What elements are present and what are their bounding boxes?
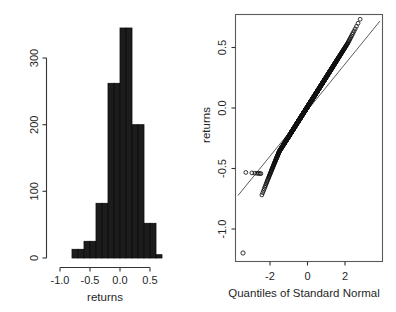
svg-text:300: 300 <box>28 49 40 67</box>
histogram-svg: 300 200 100 0 <box>0 0 200 312</box>
histogram-x-axis-title: returns <box>87 291 123 303</box>
histogram-y-tick-label-100: 100 <box>28 182 40 200</box>
qqplot-x-tick-label-0: 0 <box>304 270 310 282</box>
qqplot-y-tick-label-00: 0.0 <box>216 100 228 115</box>
qqplot-svg: 0.5 0.0 -0.5 -1.0 returns -2 0 2 Quantil… <box>196 0 396 312</box>
qqplot-y-ticks <box>232 48 236 230</box>
histogram-bar <box>90 241 96 258</box>
histogram-bar <box>114 83 120 258</box>
qqplot-point <box>356 21 360 25</box>
histogram-x-tick-label-05: 0.5 <box>142 274 157 286</box>
qqplot-point <box>358 17 362 21</box>
histogram-x-tick-label-0: 0.0 <box>112 274 127 286</box>
qqplot-y-axis-title: returns <box>200 107 212 143</box>
histogram-x-axis <box>60 268 150 272</box>
qqplot-x-tick-label-2: 2 <box>342 270 348 282</box>
histogram-x-tick-label-neg1: -1.0 <box>51 274 70 286</box>
qqplot-panel: 0.5 0.0 -0.5 -1.0 returns -2 0 2 Quantil… <box>196 0 396 312</box>
histogram-bar <box>156 255 162 258</box>
histogram-bar <box>102 203 108 258</box>
qqplot-y-tick-label-neg05: -0.5 <box>216 159 228 178</box>
qqplot-x-axis-title: Quantiles of Standard Normal <box>228 287 380 299</box>
histogram-bar <box>126 28 132 258</box>
histogram-y-tick-label-300: 300 <box>28 49 40 67</box>
histogram-bar <box>144 223 150 258</box>
histogram-bar <box>108 83 114 258</box>
figure-canvas: 300 200 100 0 <box>0 0 396 312</box>
histogram-y-axis <box>43 58 47 258</box>
qqplot-y-tick-label-05: 0.5 <box>216 40 228 55</box>
histogram-y-tick-label-200: 200 <box>28 116 40 134</box>
histogram-bar <box>150 223 156 258</box>
qqplot-x-ticks <box>270 262 345 266</box>
histogram-bar <box>96 203 102 258</box>
histogram-bar <box>84 241 90 258</box>
histogram-bar <box>78 249 84 258</box>
histogram-bars <box>72 28 162 258</box>
histogram-panel: 300 200 100 0 <box>0 0 200 312</box>
qqplot-points <box>241 17 362 255</box>
histogram-bar <box>72 249 78 258</box>
qqplot-point <box>244 171 248 175</box>
histogram-y-tick-label-0: 0 <box>28 255 40 261</box>
histogram-bar <box>138 125 144 258</box>
svg-text:0: 0 <box>28 255 40 261</box>
histogram-x-tick-label-neg05: -0.5 <box>81 274 100 286</box>
qqplot-x-tick-label-neg2: -2 <box>265 270 275 282</box>
svg-text:200: 200 <box>28 116 40 134</box>
histogram-bar <box>132 125 138 258</box>
qqplot-frame <box>236 15 383 262</box>
histogram-bar <box>120 28 126 258</box>
qqplot-outlier-point <box>241 251 245 255</box>
svg-text:100: 100 <box>28 182 40 200</box>
qqplot-y-tick-label-neg10: -1.0 <box>216 220 228 239</box>
